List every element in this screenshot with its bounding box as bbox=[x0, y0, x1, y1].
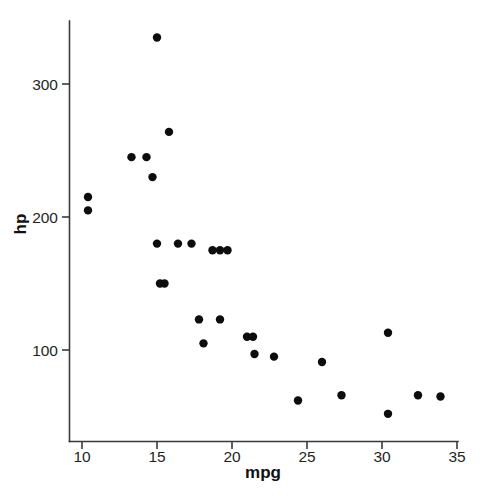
data-point bbox=[148, 173, 156, 181]
scatter-plot-figure: 100200300 101520253035 mpg hp bbox=[0, 0, 483, 499]
data-point bbox=[223, 246, 231, 254]
data-point bbox=[436, 392, 444, 400]
data-point bbox=[250, 350, 258, 358]
data-point bbox=[84, 206, 92, 214]
y-tick-label: 100 bbox=[32, 342, 58, 359]
x-tick-label: 35 bbox=[448, 448, 465, 465]
data-point bbox=[187, 239, 195, 247]
data-point bbox=[127, 153, 135, 161]
axes-group bbox=[70, 21, 459, 442]
data-point bbox=[208, 246, 216, 254]
x-tick-label: 25 bbox=[298, 448, 315, 465]
data-point bbox=[174, 239, 182, 247]
data-point bbox=[270, 352, 278, 360]
y-axis-title: hp bbox=[11, 214, 30, 235]
data-point bbox=[318, 358, 326, 366]
x-tick-label: 15 bbox=[148, 448, 165, 465]
data-point bbox=[216, 246, 224, 254]
data-point bbox=[384, 329, 392, 337]
x-tick-label: 30 bbox=[373, 448, 391, 465]
data-point bbox=[414, 391, 422, 399]
plot-canvas: 100200300 101520253035 mpg hp bbox=[0, 0, 483, 499]
data-point bbox=[249, 333, 257, 341]
data-point bbox=[199, 339, 207, 347]
x-axis-ticks: 101520253035 bbox=[73, 442, 465, 466]
x-tick-label: 10 bbox=[73, 448, 91, 465]
data-point bbox=[142, 153, 150, 161]
data-point bbox=[84, 193, 92, 201]
data-point bbox=[165, 128, 173, 136]
data-point bbox=[153, 33, 161, 41]
data-point bbox=[337, 391, 345, 399]
y-tick-label: 200 bbox=[32, 209, 58, 226]
data-point bbox=[153, 239, 161, 247]
data-point bbox=[384, 410, 392, 418]
data-point bbox=[216, 315, 224, 323]
y-axis-ticks: 100200300 bbox=[32, 76, 69, 359]
x-tick-label: 20 bbox=[223, 448, 241, 465]
data-point bbox=[195, 315, 203, 323]
data-points-layer bbox=[84, 33, 445, 418]
x-axis-title: mpg bbox=[245, 463, 281, 482]
y-tick-label: 300 bbox=[32, 76, 58, 93]
data-point bbox=[160, 279, 168, 287]
data-point bbox=[294, 396, 302, 404]
